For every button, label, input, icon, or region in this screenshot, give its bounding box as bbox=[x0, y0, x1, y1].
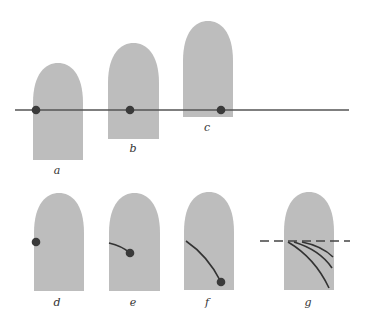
panel-label-f: f bbox=[205, 297, 209, 308]
fingertip-shape-e bbox=[109, 193, 160, 291]
panel-label-e: e bbox=[130, 297, 137, 308]
contact-dot-f bbox=[217, 278, 226, 287]
fingertip-shape-a bbox=[33, 63, 83, 160]
fingertip-shape-f bbox=[184, 192, 234, 290]
panel-label-c: c bbox=[204, 122, 210, 133]
fingertip-shape-b bbox=[108, 43, 159, 139]
diagram-canvas bbox=[0, 0, 373, 322]
panel-label-d: d bbox=[53, 297, 60, 308]
contact-dot-b bbox=[126, 106, 135, 115]
fingertip-shape-c bbox=[183, 21, 233, 117]
panel-label-a: a bbox=[54, 165, 61, 176]
fingertip-shape-d bbox=[34, 193, 84, 291]
contact-dot-c bbox=[217, 106, 226, 115]
diagram: abcdefg bbox=[0, 0, 373, 322]
contact-dot-a bbox=[32, 106, 41, 115]
panel-label-g: g bbox=[304, 297, 311, 308]
contact-dot-e bbox=[126, 249, 135, 258]
panel-label-b: b bbox=[129, 143, 136, 154]
contact-dot-d bbox=[32, 238, 41, 247]
